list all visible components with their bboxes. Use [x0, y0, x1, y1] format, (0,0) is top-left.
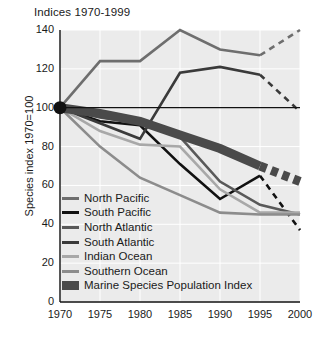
y-tick-label: 80: [24, 140, 54, 152]
y-tick-label: 20: [24, 256, 54, 268]
legend-swatch-icon: [62, 197, 79, 200]
y-tick-label: 140: [24, 23, 54, 35]
chart-figure: Indices 1970-1999 Species index 1970=100…: [0, 0, 332, 339]
legend-swatch-icon: [62, 226, 79, 229]
y-tick-label: 40: [24, 217, 54, 229]
legend-label: Marine Species Population Index: [84, 280, 252, 291]
x-tick-label: 1975: [80, 308, 120, 320]
y-tick-label: 0: [24, 295, 54, 307]
legend-item-4: Indian Ocean: [62, 249, 252, 264]
legend-swatch-icon: [62, 211, 79, 214]
legend-item-1: South Pacific: [62, 206, 252, 221]
legend-item-3: South Atlantic: [62, 235, 252, 250]
legend-item-0: North Pacific: [62, 191, 252, 206]
x-tick-label: 1970: [40, 308, 80, 320]
legend-label: Indian Ocean: [84, 251, 152, 262]
y-tick-label: 100: [24, 101, 54, 113]
legend-label: North Atlantic: [84, 222, 152, 233]
y-tick-label: 120: [24, 62, 54, 74]
y-tick-label: 60: [24, 178, 54, 190]
legend-label: South Atlantic: [84, 237, 154, 248]
x-tick-label: 1990: [200, 308, 240, 320]
legend-swatch-icon: [62, 255, 79, 258]
x-tick-label: 1995: [240, 308, 280, 320]
legend-swatch-icon: [62, 241, 79, 244]
legend-swatch-icon: [62, 270, 79, 273]
chart-legend: North PacificSouth PacificNorth Atlantic…: [62, 191, 252, 293]
x-tick-label: 2000: [280, 308, 320, 320]
x-tick-label: 1985: [160, 308, 200, 320]
legend-item-6: Marine Species Population Index: [62, 279, 252, 294]
legend-label: South Pacific: [84, 207, 151, 218]
legend-item-2: North Atlantic: [62, 220, 252, 235]
x-tick-label: 1980: [120, 308, 160, 320]
legend-label: Southern Ocean: [84, 266, 168, 277]
legend-swatch-icon: [62, 281, 79, 290]
legend-item-5: Southern Ocean: [62, 264, 252, 279]
legend-label: North Pacific: [84, 193, 149, 204]
